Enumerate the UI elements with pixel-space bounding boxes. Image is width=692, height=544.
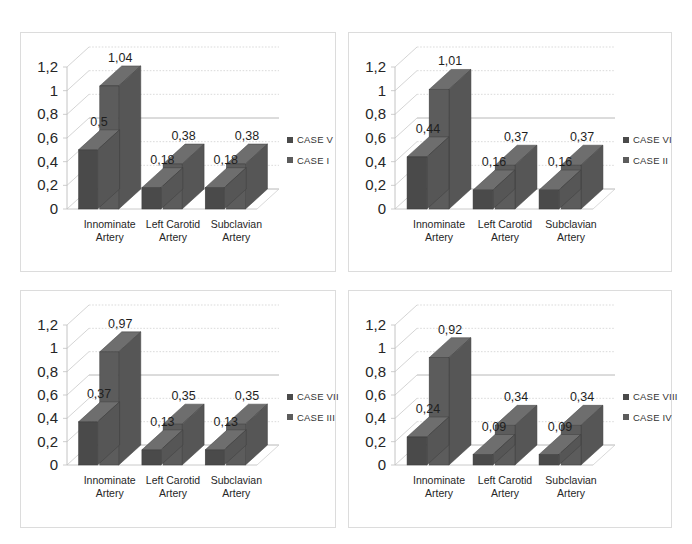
x-axis-category-label: SubclavianArtery [532, 474, 610, 500]
bar-value-label: 0,37 [562, 130, 602, 144]
axis-riser-line [395, 305, 417, 325]
bar-value-label: 0,24 [408, 402, 448, 416]
legend-swatch-icon [623, 137, 629, 143]
axis-riser-line [395, 328, 417, 348]
x-axis-category-label-line: Artery [532, 231, 610, 244]
axis-riser-line [67, 352, 89, 372]
axis-riser-line [67, 47, 89, 67]
x-axis-category-label: SubclavianArtery [199, 474, 274, 500]
bar-value-label: 0,37 [79, 387, 119, 401]
x-axis-category-label-line: Subclavian [532, 218, 610, 231]
y-axis-tick-label: 0,6 [21, 130, 58, 145]
legend: CASE VIIICASE IV [623, 392, 678, 433]
x-axis-category-label-line: Artery [532, 487, 610, 500]
legend-swatch-icon [623, 157, 629, 163]
legend-swatch-icon [623, 394, 629, 400]
y-axis-tick-label: 0,8 [349, 106, 386, 121]
legend-item[interactable]: CASE III [287, 413, 339, 423]
axis-riser-line [395, 71, 417, 91]
axis-riser-line [395, 47, 417, 67]
bar-value-label: 0,92 [430, 323, 470, 337]
y-axis-tick-label: 1,2 [21, 317, 58, 332]
bar-value-label: 0,09 [540, 420, 580, 434]
legend-item[interactable]: CASE IV [623, 413, 678, 423]
y-axis-tick-label: 0 [21, 201, 58, 216]
bar-value-label: 0,35 [227, 389, 267, 403]
y-axis-tick-label: 0,8 [21, 106, 58, 121]
bar-value-label: 0,37 [496, 130, 536, 144]
x-axis-category-label-line: Subclavian [199, 474, 274, 487]
axis-riser-line [67, 71, 89, 91]
legend-item[interactable]: CASE VIII [623, 392, 678, 402]
bar-value-label: 0,5 [79, 115, 119, 129]
legend-item-label: CASE VI [633, 135, 672, 145]
bar-value-label: 0,16 [474, 155, 514, 169]
legend-item-label: CASE VIII [633, 392, 678, 402]
y-axis-tick-label: 0,2 [21, 434, 58, 449]
axis-riser-line [67, 305, 89, 325]
x-axis-category-label-line: Artery [199, 231, 274, 244]
y-axis-tick-label: 0,4 [21, 154, 58, 169]
y-axis-tick-label: 1 [349, 83, 386, 98]
y-axis-tick-label: 0,2 [349, 434, 386, 449]
x-axis-category-label: SubclavianArtery [532, 218, 610, 244]
bar-value-label: 1,04 [100, 51, 140, 65]
y-axis-tick-label: 0,4 [349, 410, 386, 425]
bar-value-label: 0,34 [562, 390, 602, 404]
chart-panel-top-right: 00,20,40,60,811,2InnominateArteryLeft Ca… [348, 32, 672, 272]
y-axis-tick-label: 0,2 [349, 177, 386, 192]
x-axis-category-label: SubclavianArtery [199, 218, 274, 244]
y-axis-tick-label: 1 [349, 340, 386, 355]
chart-grid: 00,20,40,60,811,2InnominateArteryLeft Ca… [0, 0, 692, 544]
y-axis-tick-label: 0,4 [349, 154, 386, 169]
legend-item[interactable]: CASE VII [287, 392, 339, 402]
legend: CASE VIICASE III [287, 392, 339, 433]
legend: CASE VICASE II [623, 135, 672, 176]
legend-swatch-icon [287, 137, 293, 143]
bar-value-label: 0,09 [474, 420, 514, 434]
bar-value-label: 0,97 [100, 317, 140, 331]
bar-value-label: 0,38 [164, 129, 204, 143]
bar-value-label: 0,18 [142, 153, 182, 167]
chart-panel-bottom-left: 00,20,40,60,811,2InnominateArteryLeft Ca… [20, 290, 336, 528]
y-axis-tick-label: 0,6 [21, 387, 58, 402]
bar-value-label: 0,35 [164, 389, 204, 403]
legend-swatch-icon [287, 414, 293, 420]
y-axis-tick-label: 0,6 [349, 130, 386, 145]
legend-item-label: CASE III [297, 413, 335, 423]
axis-riser-line [395, 375, 417, 395]
y-axis-tick-label: 1,2 [349, 317, 386, 332]
y-axis-tick-label: 0,4 [21, 410, 58, 425]
axis-riser-line [395, 352, 417, 372]
legend: CASE VCASE I [287, 135, 333, 176]
legend-item[interactable]: CASE V [287, 135, 333, 145]
legend-swatch-icon [287, 157, 293, 163]
y-axis-tick-label: 0,8 [349, 364, 386, 379]
legend-item-label: CASE I [297, 156, 329, 166]
x-axis-category-label-line: Artery [199, 487, 274, 500]
legend-item-label: CASE VII [297, 392, 339, 402]
bar-value-label: 0,16 [540, 155, 580, 169]
y-axis-tick-label: 0 [21, 457, 58, 472]
axis-riser-line [67, 328, 89, 348]
chart-panel-bottom-right: 00,20,40,60,811,2InnominateArteryLeft Ca… [348, 290, 672, 528]
x-axis-category-label-line: Subclavian [199, 218, 274, 231]
bar-value-label: 0,18 [206, 153, 246, 167]
y-axis-tick-label: 1,2 [21, 59, 58, 74]
legend-item-label: CASE V [297, 135, 333, 145]
legend-item-label: CASE IV [633, 413, 672, 423]
y-axis-tick-label: 0,2 [21, 177, 58, 192]
bar-value-label: 0,44 [408, 122, 448, 136]
bar-value-label: 0,34 [496, 390, 536, 404]
y-axis-tick-label: 0 [349, 457, 386, 472]
bar-value-label: 0,13 [142, 415, 182, 429]
legend-swatch-icon [623, 414, 629, 420]
legend-item[interactable]: CASE VI [623, 135, 672, 145]
legend-item-label: CASE II [633, 156, 668, 166]
y-axis-tick-label: 1,2 [349, 59, 386, 74]
legend-item[interactable]: CASE I [287, 156, 333, 166]
y-axis-tick-label: 0 [349, 201, 386, 216]
legend-item[interactable]: CASE II [623, 156, 672, 166]
y-axis-tick-label: 1 [21, 340, 58, 355]
bar-value-label: 0,13 [206, 415, 246, 429]
